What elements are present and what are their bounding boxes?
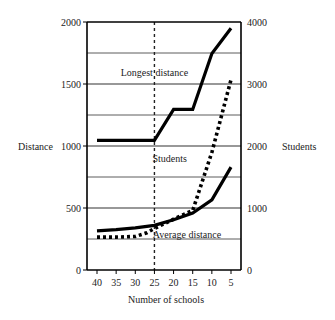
y2-tick-label: 3000 — [247, 79, 267, 90]
x-tick-label: 20 — [169, 277, 179, 288]
y2-axis-title: Students — [282, 141, 317, 152]
series-group — [97, 28, 231, 237]
x-tick-label: 40 — [92, 277, 102, 288]
x-tick-label: 35 — [111, 277, 121, 288]
y-tick-label: 2000 — [61, 17, 81, 28]
x-tick-label: 10 — [207, 277, 217, 288]
x-axis-title: Number of schools — [128, 294, 204, 305]
x-axis-ticks: 403530252015105 — [92, 270, 234, 288]
annotations: Longest distanceStudentsAverage distance — [121, 67, 222, 240]
y-axis-title: Distance — [18, 141, 54, 152]
y2-tick-label: 1000 — [247, 203, 267, 214]
y-axis-ticks: 0500100015002000 — [61, 17, 87, 276]
y2-tick-label: 0 — [247, 265, 252, 276]
y2-axis-ticks: 01000200030004000 — [247, 17, 267, 276]
y2-tick-label: 2000 — [247, 141, 267, 152]
series-label-longest-distance: Longest distance — [121, 67, 189, 78]
y-tick-label: 1500 — [61, 79, 81, 90]
series-label-students: Students — [153, 153, 188, 164]
x-tick-label: 30 — [130, 277, 140, 288]
y-tick-label: 500 — [66, 203, 81, 214]
series-label-average-distance: Average distance — [153, 229, 222, 240]
y-tick-label: 1000 — [61, 141, 81, 152]
x-tick-label: 15 — [188, 277, 198, 288]
y-tick-label: 0 — [76, 265, 81, 276]
x-tick-label: 5 — [229, 277, 234, 288]
y2-tick-label: 4000 — [247, 17, 267, 28]
chart: 403530252015105 0500100015002000 0100020… — [0, 0, 335, 320]
gridlines — [87, 53, 241, 239]
x-tick-label: 25 — [149, 277, 159, 288]
